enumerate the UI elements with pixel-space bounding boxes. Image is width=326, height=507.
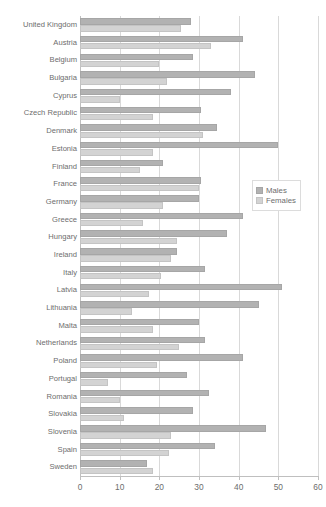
category-label: Latvia [0,281,77,299]
category-label: Italy [0,264,77,282]
legend-item-males[interactable]: Males [256,186,296,195]
x-tick-mark [278,476,279,480]
category-label: Finland [0,158,77,176]
x-tick-mark [199,476,200,480]
bar-row: Romania [0,388,326,406]
bar-females [80,450,169,456]
bar-males [80,390,209,396]
bar-row: Greece [0,211,326,229]
x-tick-label: 0 [65,482,95,492]
x-tick-mark [159,476,160,480]
bar-females [80,308,132,314]
legend-label: Males [266,186,287,195]
category-label: Austria [0,34,77,52]
legend-swatch-icon [256,197,263,204]
bar-females [80,397,120,403]
bar-chart: United KingdomAustriaBelgiumBulgariaCypr… [0,0,326,507]
legend-item-females[interactable]: Females [256,196,296,205]
x-tick-mark [318,476,319,480]
bar-row: Cyprus [0,87,326,105]
legend-label: Females [266,196,296,205]
bar-row: Portugal [0,370,326,388]
category-label: Belgium [0,51,77,69]
category-label: Netherlands [0,334,77,352]
bar-females [80,202,163,208]
x-tick-mark [120,476,121,480]
bar-row: Czech Republic [0,104,326,122]
bar-males [80,301,259,307]
bar-females [80,432,171,438]
x-tick-label: 10 [105,482,135,492]
bar-row: Malta [0,317,326,335]
category-label: Malta [0,317,77,335]
bar-row: Austria [0,34,326,52]
bar-males [80,354,243,360]
category-label: Spain [0,441,77,459]
bar-females [80,291,149,297]
bar-females [80,273,161,279]
category-label: Sweden [0,458,77,476]
bar-females [80,344,179,350]
bar-males [80,124,217,130]
bar-row: Latvia [0,281,326,299]
category-label: Denmark [0,122,77,140]
bar-males [80,230,227,236]
bar-row: Denmark [0,122,326,140]
bar-females [80,255,171,261]
bar-males [80,18,191,24]
bar-males [80,142,278,148]
bar-females [80,149,153,155]
chart-legend: MalesFemales [252,180,301,211]
bar-males [80,36,243,42]
category-label: Poland [0,352,77,370]
bar-females [80,415,124,421]
bar-males [80,160,163,166]
bar-row: United Kingdom [0,16,326,34]
category-label: Romania [0,388,77,406]
bar-row: Slovenia [0,423,326,441]
bar-females [80,185,199,191]
bar-males [80,319,199,325]
bar-row: Lithuania [0,299,326,317]
category-label: Lithuania [0,299,77,317]
category-label: Estonia [0,140,77,158]
category-label: Ireland [0,246,77,264]
category-label: Hungary [0,228,77,246]
category-label: Portugal [0,370,77,388]
bar-females [80,362,157,368]
category-label: Greece [0,211,77,229]
bar-females [80,132,203,138]
bar-row: Finland [0,158,326,176]
bar-females [80,326,153,332]
category-label: Bulgaria [0,69,77,87]
bar-males [80,284,282,290]
bar-males [80,213,243,219]
bar-males [80,337,205,343]
x-tick-label: 50 [263,482,293,492]
bar-females [80,167,140,173]
bar-females [80,114,153,120]
category-label: Slovenia [0,423,77,441]
x-tick-label: 60 [303,482,326,492]
category-label: Cyprus [0,87,77,105]
x-tick-label: 40 [224,482,254,492]
category-label: France [0,175,77,193]
x-tick-label: 30 [184,482,214,492]
bar-row: Estonia [0,140,326,158]
category-label: Germany [0,193,77,211]
x-tick-mark [80,476,81,480]
bar-row: Hungary [0,228,326,246]
bar-males [80,460,147,466]
bar-row: Netherlands [0,334,326,352]
bar-row: Ireland [0,246,326,264]
bar-row: Bulgaria [0,69,326,87]
bar-males [80,266,205,272]
bar-males [80,71,255,77]
x-tick-label: 20 [144,482,174,492]
bar-females [80,238,177,244]
bar-males [80,89,231,95]
bar-females [80,220,143,226]
bar-males [80,407,193,413]
category-label: Slovakia [0,405,77,423]
bar-row: Belgium [0,51,326,69]
